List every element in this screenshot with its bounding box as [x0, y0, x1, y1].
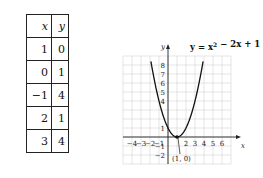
x-axis-label: x	[241, 142, 245, 150]
chart-title: y = x2 − 2x + 1	[189, 39, 260, 52]
parabola-chart: −4−3−2−123456876541−1−2 (1, 0) y = x2 − …	[0, 0, 263, 178]
y-axis-label: y	[160, 43, 166, 51]
x-axis-arrow	[236, 135, 241, 139]
vertex-label: (1, 0)	[172, 155, 191, 163]
x-tick-label: 4	[202, 140, 207, 148]
x-tick-label: 2	[184, 140, 188, 148]
y-tick-label: 8	[161, 62, 165, 70]
x-tick-label: 6	[220, 140, 225, 148]
tick-labels: −4−3−2−123456876541−1−2	[127, 62, 225, 160]
y-tick-label: 4	[161, 98, 166, 106]
y-tick-label: −2	[155, 152, 165, 160]
y-tick-label: 6	[161, 80, 166, 88]
y-tick-label: −1	[155, 143, 165, 151]
y-tick-label: 7	[161, 71, 165, 79]
x-tick-label: 5	[211, 140, 215, 148]
y-tick-label: 1	[161, 125, 165, 133]
y-tick-label: 5	[161, 89, 165, 97]
x-tick-label: 3	[193, 140, 197, 148]
y-axis-arrow	[166, 44, 170, 49]
